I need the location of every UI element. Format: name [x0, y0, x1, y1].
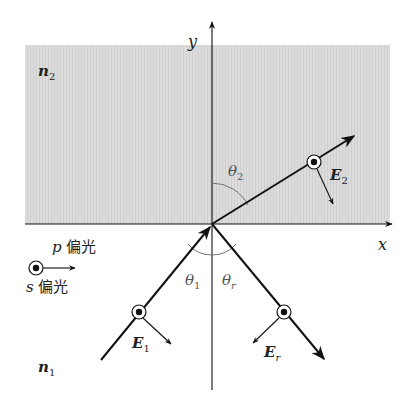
medium-n1-label: n1 — [38, 358, 55, 378]
medium-n2-region — [25, 45, 390, 224]
transmitted-s-pol-symbol — [307, 155, 321, 169]
s-pol-legend-symbol — [29, 261, 43, 275]
reflected-s-pol-symbol — [277, 305, 291, 319]
thetar-label: θr — [222, 271, 237, 291]
x-axis-label: x — [378, 235, 387, 254]
reflected-ray — [212, 224, 324, 359]
p-polarization-label: p 偏光 — [52, 238, 96, 256]
incident-ray — [101, 227, 210, 360]
incident-s-pol-symbol — [132, 305, 146, 319]
reflected-E-label: Er — [263, 343, 281, 363]
optics-diagram: n2 y x θ2 θ1 θr E1 Er E2 p 偏光 s 偏光 n1 — [0, 0, 412, 411]
y-axis-label: y — [187, 32, 198, 51]
incident-E-label: E1 — [131, 334, 150, 354]
incident-E-field-arrow — [143, 318, 171, 344]
reflected-E-field-arrow — [253, 318, 279, 343]
theta1-label: θ1 — [185, 271, 200, 291]
s-polarization-label: s 偏光 — [26, 278, 68, 296]
